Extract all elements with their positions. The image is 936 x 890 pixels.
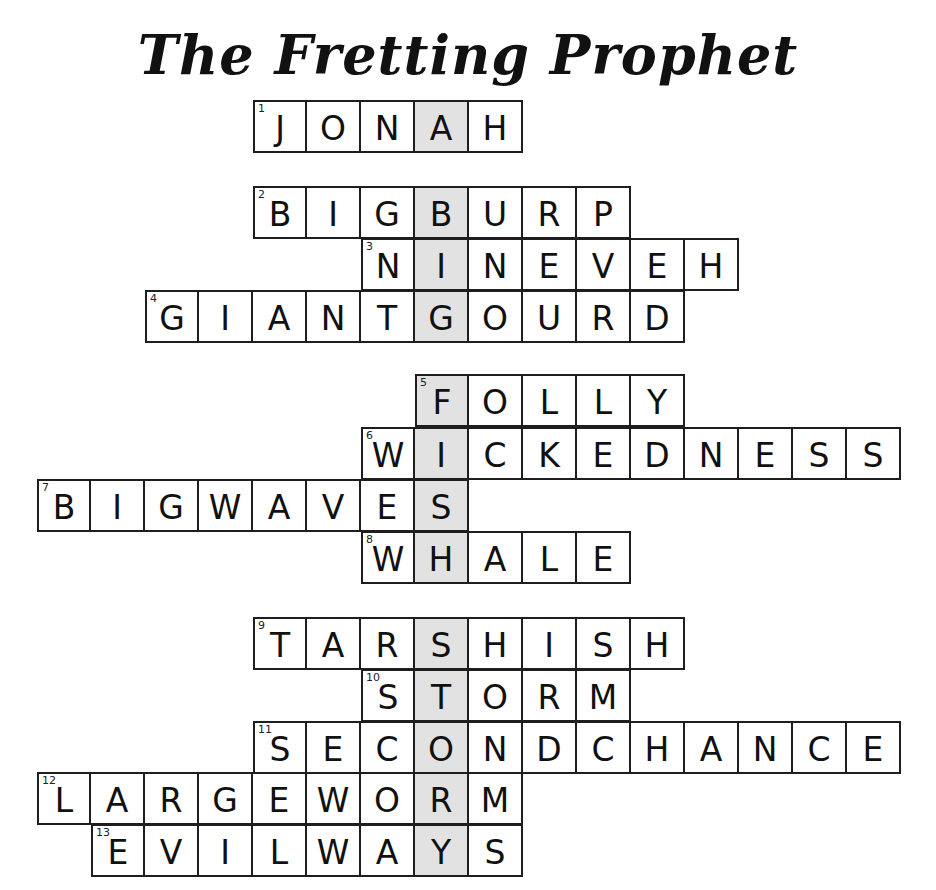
highlighted-cell[interactable]: H: [413, 531, 469, 584]
letter-cell[interactable]: C: [791, 721, 847, 774]
letter-cell[interactable]: O: [467, 290, 523, 343]
letter-cell[interactable]: T: [359, 290, 415, 343]
letter-cell[interactable]: E: [251, 772, 307, 825]
letter-cell[interactable]: E: [521, 238, 577, 291]
letter-cell[interactable]: 3N: [361, 238, 415, 291]
letter-cell[interactable]: I: [521, 617, 577, 670]
letter-cell[interactable]: 10S: [361, 669, 415, 722]
letter-cell[interactable]: I: [305, 186, 361, 239]
letter-cell[interactable]: H: [467, 617, 523, 670]
letter-cell[interactable]: 8W: [361, 531, 415, 584]
letter-cell[interactable]: N: [305, 290, 361, 343]
letter-cell[interactable]: O: [467, 374, 523, 427]
letter-cell[interactable]: M: [575, 669, 631, 722]
letter-cell[interactable]: O: [467, 669, 523, 722]
letter-cell[interactable]: H: [467, 100, 523, 153]
highlighted-cell[interactable]: G: [413, 290, 469, 343]
letter-cell[interactable]: A: [305, 617, 361, 670]
letter-cell[interactable]: H: [629, 617, 685, 670]
letter-cell[interactable]: S: [575, 617, 631, 670]
letter-cell[interactable]: W: [197, 479, 253, 532]
letter-cell[interactable]: N: [467, 238, 523, 291]
letter-cell[interactable]: N: [467, 721, 523, 774]
letter-cell[interactable]: E: [629, 238, 685, 291]
letter-cell[interactable]: D: [629, 427, 685, 480]
letter-cell[interactable]: 9T: [253, 617, 307, 670]
highlighted-cell[interactable]: I: [413, 238, 469, 291]
letter-cell[interactable]: W: [305, 824, 361, 877]
letter-cell[interactable]: G: [359, 186, 415, 239]
letter-cell[interactable]: 13E: [91, 824, 145, 877]
highlighted-cell[interactable]: R: [413, 772, 469, 825]
letter-cell[interactable]: A: [251, 290, 307, 343]
letter-cell[interactable]: L: [251, 824, 307, 877]
letter-cell[interactable]: E: [737, 427, 793, 480]
letter-cell[interactable]: D: [629, 290, 685, 343]
letter-cell[interactable]: 2B: [253, 186, 307, 239]
letter-cell[interactable]: P: [575, 186, 631, 239]
letter-cell[interactable]: L: [521, 531, 577, 584]
highlighted-cell[interactable]: I: [413, 427, 469, 480]
letter-cell[interactable]: N: [737, 721, 793, 774]
highlighted-cell[interactable]: S: [413, 617, 469, 670]
letter-cell[interactable]: U: [467, 186, 523, 239]
letter-cell[interactable]: A: [683, 721, 739, 774]
letter-cell[interactable]: Y: [629, 374, 685, 427]
letter-cell[interactable]: S: [467, 824, 523, 877]
letter-cell[interactable]: O: [359, 772, 415, 825]
letter-cell[interactable]: R: [143, 772, 199, 825]
highlighted-cell[interactable]: O: [413, 721, 469, 774]
letter-cell[interactable]: L: [575, 374, 631, 427]
letter-cell[interactable]: D: [521, 721, 577, 774]
letter-cell[interactable]: V: [575, 238, 631, 291]
highlighted-cell[interactable]: Y: [413, 824, 469, 877]
letter-cell[interactable]: E: [575, 531, 631, 584]
letter-cell[interactable]: H: [683, 238, 739, 291]
letter-cell[interactable]: G: [143, 479, 199, 532]
letter-cell[interactable]: E: [359, 479, 415, 532]
letter-cell[interactable]: S: [791, 427, 847, 480]
letter-cell[interactable]: M: [467, 772, 523, 825]
letter-cell[interactable]: N: [683, 427, 739, 480]
letter-cell[interactable]: N: [359, 100, 415, 153]
letter-cell[interactable]: I: [197, 290, 253, 343]
letter-cell[interactable]: V: [143, 824, 199, 877]
letter-cell[interactable]: R: [575, 290, 631, 343]
letter-cell[interactable]: E: [575, 427, 631, 480]
letter-cell[interactable]: K: [521, 427, 577, 480]
letter-cell[interactable]: O: [305, 100, 361, 153]
letter-cell[interactable]: R: [521, 186, 577, 239]
letter-cell[interactable]: W: [305, 772, 361, 825]
letter-cell[interactable]: C: [359, 721, 415, 774]
letter-cell[interactable]: V: [305, 479, 361, 532]
letter-cell[interactable]: I: [197, 824, 253, 877]
highlighted-cell[interactable]: T: [413, 669, 469, 722]
letter-cell[interactable]: 7B: [37, 479, 91, 532]
letter-cell[interactable]: 11S: [253, 721, 307, 774]
letter-cell[interactable]: 12L: [37, 772, 91, 825]
letter-cell[interactable]: R: [521, 669, 577, 722]
letter-cell[interactable]: 4G: [145, 290, 199, 343]
letter-cell[interactable]: R: [359, 617, 415, 670]
cell-letter: E: [647, 246, 668, 283]
letter-cell[interactable]: C: [467, 427, 523, 480]
letter-cell[interactable]: S: [845, 427, 901, 480]
letter-cell[interactable]: A: [89, 772, 145, 825]
letter-cell[interactable]: L: [521, 374, 577, 427]
letter-cell[interactable]: A: [251, 479, 307, 532]
highlighted-cell[interactable]: A: [413, 100, 469, 153]
letter-cell[interactable]: 1J: [253, 100, 307, 153]
highlighted-cell[interactable]: B: [413, 186, 469, 239]
letter-cell[interactable]: H: [629, 721, 685, 774]
letter-cell[interactable]: G: [197, 772, 253, 825]
letter-cell[interactable]: E: [845, 721, 901, 774]
letter-cell[interactable]: A: [467, 531, 523, 584]
letter-cell[interactable]: E: [305, 721, 361, 774]
letter-cell[interactable]: 6W: [361, 427, 415, 480]
letter-cell[interactable]: I: [89, 479, 145, 532]
highlighted-cell[interactable]: 5F: [415, 374, 469, 427]
letter-cell[interactable]: A: [359, 824, 415, 877]
highlighted-cell[interactable]: S: [413, 479, 469, 532]
letter-cell[interactable]: C: [575, 721, 631, 774]
letter-cell[interactable]: U: [521, 290, 577, 343]
